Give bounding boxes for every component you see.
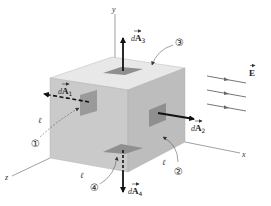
edge-label-right: ℓ [162,158,166,167]
svg-text:dA3: dA3 [131,33,146,44]
x-axis-label: x [241,150,246,159]
x-axis [185,142,240,153]
field-label-E: E [249,66,255,79]
svg-text:dA4: dA4 [128,186,143,197]
z-axis [12,158,50,176]
pointer-face-3 [152,45,173,65]
face-marker-3: ③ [175,37,184,48]
y-axis-label: y [111,5,116,14]
svg-text:dA2: dA2 [191,123,206,134]
label-dA2: dA2 [191,121,206,134]
gauss-cube-diagram: y z x E dA3 [0,0,271,206]
label-dA4: dA4 [128,184,143,197]
edge-label-bottom: ℓ [80,171,84,180]
svg-text:E: E [249,68,255,78]
label-dA3: dA3 [131,31,146,44]
face-marker-2: ② [174,166,183,177]
edge-label-left: ℓ [38,116,42,125]
electric-field-lines [207,76,246,111]
face-marker-1: ① [31,138,40,149]
face-marker-4: ④ [90,182,99,193]
z-axis-label: z [4,173,9,182]
